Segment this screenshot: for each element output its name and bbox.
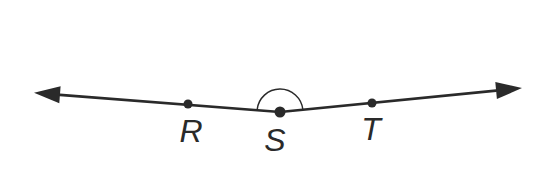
point-label-t: T xyxy=(361,111,383,147)
arrowhead-right-icon xyxy=(495,82,522,99)
ray-s-through-r-line xyxy=(60,95,280,112)
point-label-r: R xyxy=(179,113,202,149)
point-dot-r xyxy=(184,100,193,109)
geometry-diagram: R S T xyxy=(0,0,547,171)
point-dot-t xyxy=(368,99,377,108)
angle-rst-figure: R S T xyxy=(0,0,547,171)
ray-s-through-t-line xyxy=(280,91,496,112)
arrowhead-left-icon xyxy=(34,86,61,103)
point-label-s: S xyxy=(264,122,285,158)
point-dot-s xyxy=(275,107,286,118)
